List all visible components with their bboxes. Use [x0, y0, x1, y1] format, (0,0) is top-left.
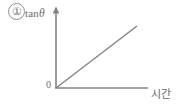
origin-label: 0 [46, 79, 51, 90]
arrow-up-icon [53, 7, 60, 14]
data-series-line [56, 26, 137, 88]
figure-container: ① tanθ 0 시간 [0, 0, 180, 104]
x-axis-label: 시간 [151, 85, 171, 101]
